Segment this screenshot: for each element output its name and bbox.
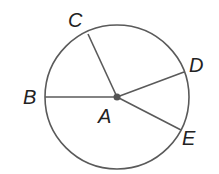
circle-diagram: B C D E A (0, 0, 219, 174)
label-c: C (68, 9, 83, 31)
radius-ac (88, 34, 117, 97)
label-b: B (23, 86, 36, 108)
radius-ad (117, 72, 184, 97)
label-d: D (189, 54, 203, 76)
radius-ae (117, 97, 181, 130)
label-e: E (182, 127, 196, 149)
center-dot (114, 94, 121, 101)
label-a: A (97, 105, 111, 127)
